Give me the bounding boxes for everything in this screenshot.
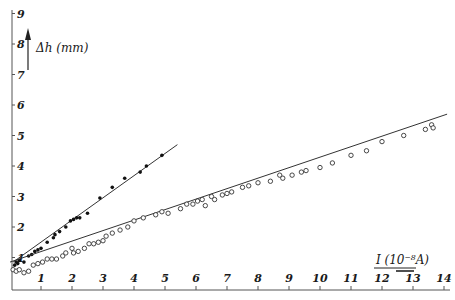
data-point: [423, 127, 427, 131]
data-point: [225, 191, 229, 195]
data-point: [45, 257, 49, 261]
data-point: [78, 216, 82, 220]
x-tick-label: 8: [254, 272, 262, 285]
data-point: [318, 165, 322, 169]
series-layer: [10, 114, 447, 275]
data-point: [75, 216, 79, 220]
arrow-head-icon: [25, 28, 31, 40]
data-point: [98, 196, 102, 200]
chart-canvas: 1234567891011121314 123456789 Δh (mm) I …: [0, 0, 455, 300]
x-tick-label: 5: [161, 272, 169, 285]
x-tick-label: 2: [67, 272, 76, 285]
data-point: [26, 269, 30, 273]
data-point: [53, 233, 57, 237]
data-point: [349, 153, 353, 157]
data-point: [69, 219, 73, 223]
data-point: [86, 211, 90, 215]
data-point: [72, 218, 76, 222]
data-point: [123, 176, 127, 180]
data-point: [364, 149, 368, 153]
x-tick-label: 6: [192, 272, 200, 285]
x-tick-label: 14: [436, 272, 451, 285]
data-point: [50, 257, 54, 261]
data-point: [45, 240, 49, 244]
data-point: [31, 263, 35, 267]
data-point: [118, 228, 122, 232]
data-point: [380, 139, 384, 143]
data-point: [87, 242, 91, 246]
data-point: [22, 260, 26, 264]
data-point: [126, 225, 130, 229]
data-point: [110, 231, 114, 235]
data-point: [111, 186, 115, 190]
y-axis-label: Δh (mm): [35, 41, 89, 55]
data-point: [52, 236, 56, 240]
data-point: [145, 164, 149, 168]
x-tick-label: 3: [99, 272, 107, 285]
data-point: [96, 240, 100, 244]
data-point: [203, 203, 207, 207]
x-tick-label: 10: [312, 272, 328, 285]
y-tick-label: 6: [17, 99, 25, 112]
data-point: [141, 216, 145, 220]
data-point: [104, 234, 108, 238]
data-point: [33, 250, 37, 254]
fit-line: [10, 114, 447, 262]
data-point: [58, 230, 62, 234]
x-tick-label: 12: [374, 272, 390, 285]
data-point: [240, 185, 244, 189]
x-tick-label: 4: [130, 272, 138, 285]
data-point: [13, 263, 17, 267]
data-point: [268, 179, 272, 183]
data-point: [195, 199, 199, 203]
y-tick-label: 4: [17, 160, 25, 173]
data-point: [402, 133, 406, 137]
data-point: [281, 176, 285, 180]
data-point: [54, 257, 58, 261]
y-tick-label: 3: [17, 191, 25, 204]
data-point: [299, 170, 303, 174]
data-point: [64, 251, 68, 255]
x-axis-title: I (10⁻⁸A): [374, 253, 429, 271]
data-point: [22, 271, 26, 275]
data-point: [40, 260, 44, 264]
y-tick-label: 9: [17, 8, 25, 21]
data-point: [247, 184, 251, 188]
data-point: [36, 261, 40, 265]
y-tick-label: 7: [17, 69, 25, 82]
data-point: [70, 246, 74, 250]
y-tick-label: 5: [17, 130, 25, 143]
data-point: [431, 126, 435, 130]
x-ticks: 1234567891011121314: [37, 272, 451, 290]
data-point: [76, 249, 80, 253]
data-point: [185, 202, 189, 206]
data-point: [304, 168, 308, 172]
data-point: [82, 246, 86, 250]
series-filled-dots: [13, 145, 178, 267]
data-point: [256, 181, 260, 185]
x-tick-label: 1: [37, 272, 45, 285]
data-point: [16, 262, 20, 266]
y-tick-label: 2: [16, 221, 25, 234]
data-point: [36, 248, 40, 252]
data-point: [200, 197, 204, 201]
x-tick-label: 13: [405, 272, 421, 285]
data-point: [229, 190, 233, 194]
data-point: [17, 268, 21, 272]
data-point: [212, 197, 216, 201]
data-point: [160, 154, 164, 158]
x-tick-label: 9: [285, 272, 293, 285]
y-axis-title: Δh (mm): [25, 28, 89, 70]
x-tick-label: 7: [223, 272, 231, 285]
data-point: [154, 213, 158, 217]
data-point: [191, 202, 195, 206]
y-ticks: 123456789: [12, 8, 25, 265]
data-point: [220, 193, 224, 197]
data-point: [178, 207, 182, 211]
data-point: [138, 170, 142, 174]
data-point: [39, 247, 43, 251]
data-point: [101, 239, 105, 243]
data-point: [330, 161, 334, 165]
y-tick-label: 8: [17, 38, 25, 51]
data-point: [92, 242, 96, 246]
